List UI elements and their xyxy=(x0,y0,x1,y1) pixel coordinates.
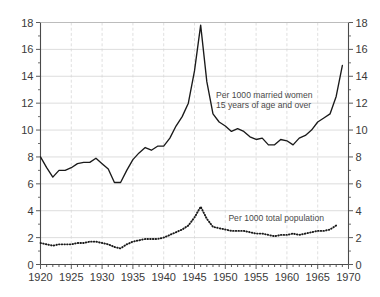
y-axis-tick-label-right: 4 xyxy=(356,205,362,217)
married-women-label: Per 1000 married women15 years of age an… xyxy=(216,90,313,111)
y-axis-tick-label-left: 4 xyxy=(27,205,33,217)
divorce-rate-line-chart: 024681012141618 024681012141618 19201925… xyxy=(0,0,380,297)
y-axis-tick-label-right: 6 xyxy=(356,178,362,190)
y-axis-tick-label-left: 0 xyxy=(27,259,33,271)
x-axis-labels: 1920192519301935194019451950195519601965… xyxy=(28,271,360,283)
chart-background xyxy=(0,0,380,297)
y-axis-tick-label-right: 10 xyxy=(356,124,368,136)
x-axis-tick-label: 1925 xyxy=(59,271,83,283)
y-axis-tick-label-left: 16 xyxy=(21,43,33,55)
x-axis-tick-label: 1950 xyxy=(213,271,237,283)
x-axis-tick-label: 1965 xyxy=(305,271,329,283)
y-axis-tick-label-right: 18 xyxy=(356,17,368,29)
y-axis-tick-label-left: 14 xyxy=(21,70,33,82)
x-axis-tick-label: 1960 xyxy=(275,271,299,283)
x-axis-tick-label: 1945 xyxy=(182,271,206,283)
chart-container: 024681012141618 024681012141618 19201925… xyxy=(0,0,380,297)
x-axis-tick-label: 1920 xyxy=(28,271,52,283)
y-axis-tick-label-left: 8 xyxy=(27,151,33,163)
x-axis-tick-label: 1930 xyxy=(90,271,114,283)
x-axis-tick-label: 1935 xyxy=(121,271,145,283)
x-axis-tick-label: 1940 xyxy=(151,271,175,283)
total-population-label: Per 1000 total population xyxy=(228,213,324,223)
y-axis-tick-label-left: 12 xyxy=(21,97,33,109)
y-axis-tick-label-left: 2 xyxy=(27,232,33,244)
y-axis-tick-label-right: 0 xyxy=(356,259,362,271)
x-axis-tick-label: 1955 xyxy=(244,271,268,283)
y-axis-tick-label-right: 8 xyxy=(356,151,362,163)
y-axis-tick-label-right: 14 xyxy=(356,70,368,82)
y-axis-tick-label-left: 6 xyxy=(27,178,33,190)
y-axis-tick-label-left: 10 xyxy=(21,124,33,136)
y-axis-tick-label-left: 18 xyxy=(21,17,33,29)
y-axis-tick-label-right: 12 xyxy=(356,97,368,109)
x-axis-tick-label: 1970 xyxy=(336,271,360,283)
y-axis-tick-label-right: 16 xyxy=(356,43,368,55)
y-axis-tick-label-right: 2 xyxy=(356,232,362,244)
